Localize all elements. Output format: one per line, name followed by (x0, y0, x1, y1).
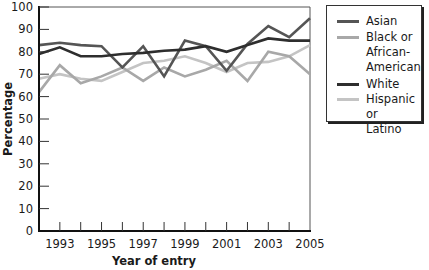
y-tick-label: 100 (11, 0, 33, 14)
x-tick-label: 1999 (170, 237, 199, 251)
y-axis-title: Percentage (1, 82, 15, 156)
y-tick-label: 20 (18, 179, 33, 193)
x-tick-label: 2001 (212, 237, 241, 251)
chart-legend: Asian Black or African- American White H… (326, 5, 422, 122)
y-tick-label: 90 (18, 22, 33, 36)
y-tick-label: 50 (18, 112, 33, 126)
series-line-white (39, 38, 310, 56)
y-tick-label: 60 (18, 90, 33, 104)
y-axis-ticks: 0102030405060708090100 (11, 0, 49, 238)
legend-swatch-hispanic (337, 98, 359, 101)
axes (38, 6, 311, 232)
y-tick-label: 80 (18, 45, 33, 59)
legend-swatch-asian (337, 20, 359, 23)
legend-label: Hispanic or Latino (366, 92, 421, 137)
x-tick-label: 1997 (129, 237, 158, 251)
x-tick-label: 2003 (254, 237, 283, 251)
legend-swatch-white (337, 83, 359, 86)
x-tick-label: 2005 (295, 237, 324, 251)
legend-label: Asian (366, 14, 397, 29)
x-axis-title: Year of entry (111, 254, 197, 268)
series-line-asian (39, 18, 310, 76)
series-lines (39, 18, 310, 92)
x-axis-ticks: 1993199519971999200120032005 (45, 222, 324, 251)
legend-label: White (366, 77, 399, 92)
x-tick-label: 1993 (45, 237, 74, 251)
y-tick-label: 0 (26, 224, 33, 238)
x-tick-label: 1995 (87, 237, 116, 251)
y-tick-label: 70 (18, 67, 33, 81)
y-tick-label: 10 (18, 202, 33, 216)
y-tick-label: 30 (18, 157, 33, 171)
y-tick-label: 40 (18, 134, 33, 148)
legend-label: Black or African- American (366, 30, 421, 75)
legend-swatch-black (337, 36, 359, 39)
plot-frame (39, 7, 310, 231)
